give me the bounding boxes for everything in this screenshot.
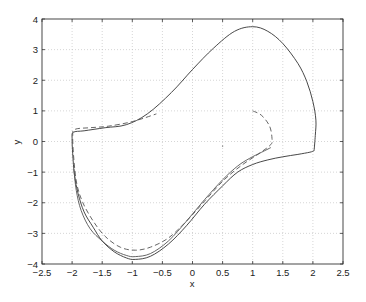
x-tick-label: −0.5 [153, 267, 172, 278]
y-tick-label: −3 [27, 228, 38, 239]
x-tick-label: −1.5 [93, 267, 112, 278]
x-tick-label: 0.5 [216, 267, 229, 278]
y-tick-labels: −4−3−2−101234 [27, 14, 38, 270]
y-tick-label: 1 [33, 105, 38, 116]
y-tick-label: 2 [33, 75, 38, 86]
x-tick-label: 0 [190, 267, 195, 278]
y-tick-label: −2 [27, 197, 38, 208]
y-tick-label: 0 [33, 136, 38, 147]
x-axis-label: x [190, 278, 195, 289]
x-tick-label: 2.5 [336, 267, 349, 278]
x-tick-label: 2 [310, 267, 315, 278]
y-tick-label: 4 [33, 14, 38, 25]
y-tick-label: 3 [33, 44, 38, 55]
x-tick-labels: −2.5−2−1.5−1−0.500.511.522.5 [33, 267, 350, 278]
y-axis-label: y [11, 139, 22, 144]
x-tick-label: −2 [67, 267, 78, 278]
y-tick-label: −1 [27, 167, 38, 178]
x-tick-label: 1 [250, 267, 255, 278]
y-tick-label: −4 [27, 259, 38, 270]
x-tick-label: 1.5 [276, 267, 289, 278]
phase-portrait-chart: −2.5−2−1.5−1−0.500.511.522.5 −4−3−2−1012… [0, 0, 366, 302]
x-tick-label: −1 [127, 267, 138, 278]
annotation-point [222, 145, 223, 146]
